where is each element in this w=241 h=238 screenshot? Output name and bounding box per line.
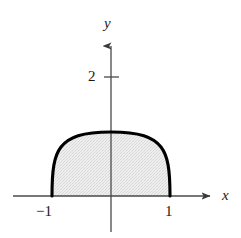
x-tick-label-minus-1: −1	[36, 204, 52, 219]
y-axis-label: y	[104, 16, 111, 31]
figure-container: y x 2 −1 1	[0, 0, 241, 238]
x-axis-label: x	[222, 188, 229, 203]
x-tick-label-1: 1	[165, 204, 173, 219]
y-tick-label-2: 2	[88, 69, 96, 84]
